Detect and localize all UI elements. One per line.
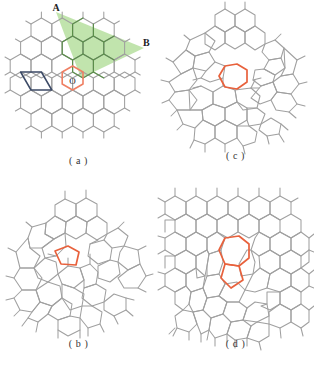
panel-a: A B O ( a ) [0,0,157,180]
caption-panel-b: ( b ) [0,338,157,349]
label-vector-a: A [52,2,60,13]
caption-panel-d: ( d ) [157,338,314,349]
lattice-d [158,188,314,350]
figure-grid: A B O ( a ) [0,0,314,366]
lattice-b [6,190,153,338]
heptagon-defect-d [219,236,249,266]
label-vector-b: B [143,37,150,48]
caption-panel-a: ( a ) [0,155,157,166]
panel-b: ( b ) [0,180,157,366]
panel-d: ( d ) [157,180,314,366]
lattice-c [161,2,307,154]
label-origin: O [69,76,76,86]
caption-panel-c: ( c ) [157,150,314,161]
panel-a-diagram: A B O [0,0,157,180]
panel-c: ( c ) [157,0,314,180]
